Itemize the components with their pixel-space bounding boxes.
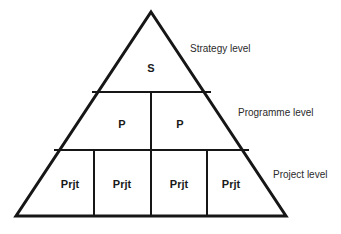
programme-cell-label-2: P — [176, 118, 183, 130]
programme-cell-label-1: P — [118, 118, 125, 130]
programme-level-annotation: Programme level — [238, 107, 314, 118]
project-cell-label-1: Prjt — [61, 178, 79, 190]
strategy-cell-label: S — [147, 62, 154, 74]
project-level-annotation: Project level — [273, 169, 327, 180]
strategy-level-annotation: Strategy level — [190, 43, 251, 54]
project-cell-label-3: Prjt — [170, 178, 188, 190]
project-cell-label-2: Prjt — [113, 178, 131, 190]
pyramid-diagram: S P P Prjt Prjt Prjt Prjt Strategy level… — [0, 0, 341, 234]
project-cell-label-4: Prjt — [222, 178, 240, 190]
caption-fragment — [4, 221, 100, 228]
